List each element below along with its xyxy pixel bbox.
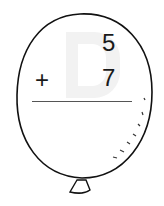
operator-plus: + [35, 68, 49, 92]
balloon-outline-icon [0, 0, 164, 206]
bottom-number: 7 [102, 66, 115, 90]
sum-line [32, 101, 132, 102]
top-number: 5 [102, 31, 115, 55]
